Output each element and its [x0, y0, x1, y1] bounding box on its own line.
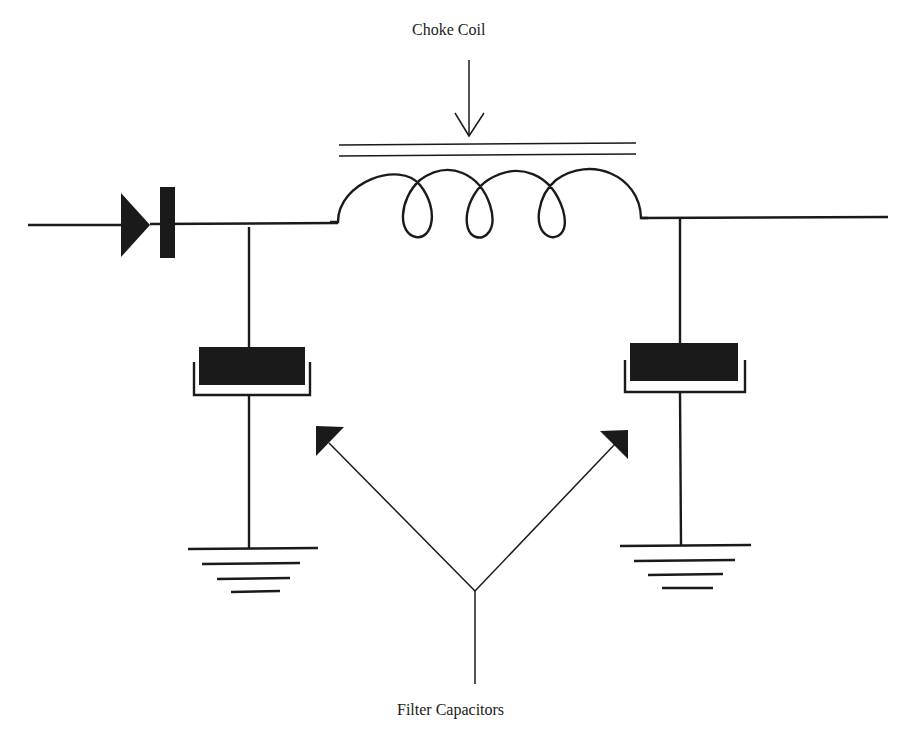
- choke-coil-label: Choke Coil: [412, 21, 485, 39]
- output-wire: [641, 217, 888, 218]
- diode-cathode-bar: [160, 187, 175, 258]
- ground-right-icon: [620, 545, 751, 588]
- filter-capacitors-pointer-icon: [316, 426, 628, 684]
- capacitor-left-icon: [194, 227, 310, 548]
- diode-anode-triangle: [121, 193, 150, 257]
- inductor-coil-icon: [330, 169, 648, 237]
- capacitor-right-icon: [625, 219, 745, 545]
- core-line-bottom: [339, 154, 636, 156]
- circuit-diagram: [0, 0, 917, 730]
- ground-left-icon: [188, 548, 318, 592]
- choke-arrow-icon: [455, 60, 484, 136]
- wire-diode-to-coil: [150, 223, 338, 224]
- filter-capacitors-label: Filter Capacitors: [397, 701, 504, 719]
- core-line-top: [339, 143, 636, 145]
- diode-icon: [121, 187, 175, 258]
